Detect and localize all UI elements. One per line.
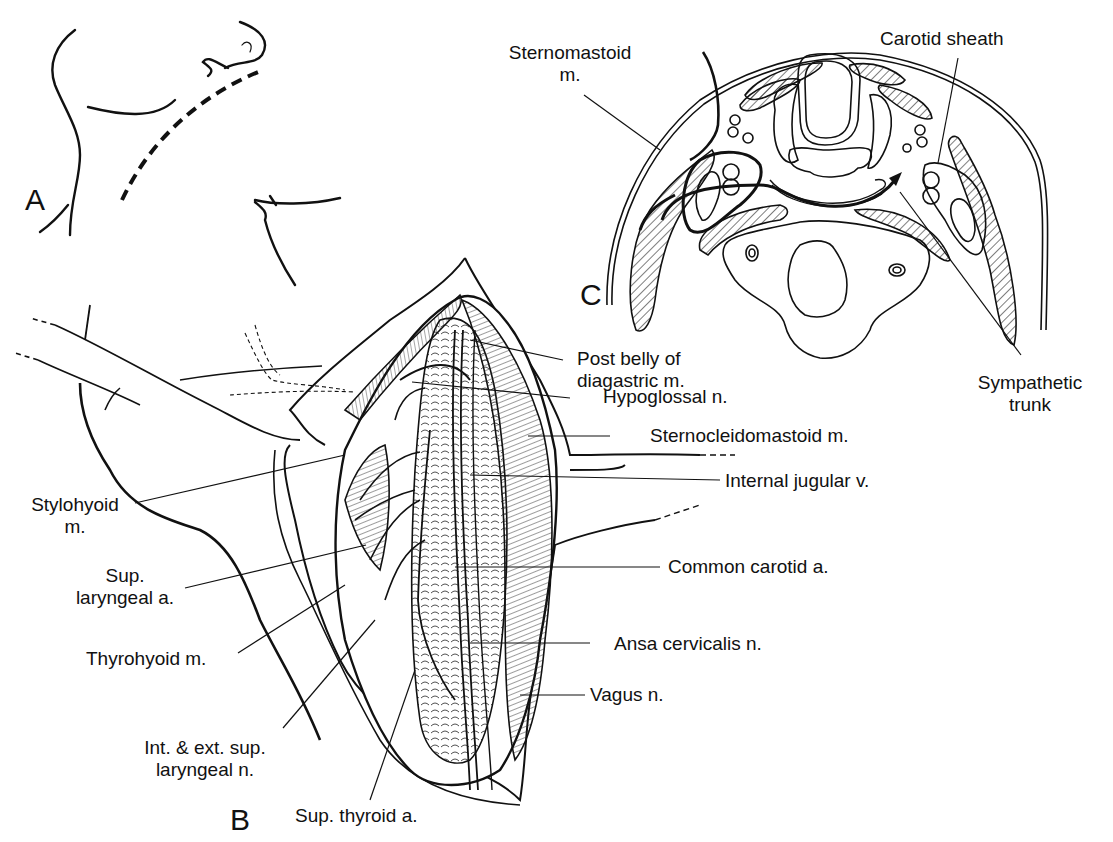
label-line: m. [500,64,640,86]
panel-a-sketch [40,22,340,285]
label-ansa-cervicalis: Ansa cervicalis n. [614,633,762,655]
label-line: Int. & ext. sup. [125,737,285,759]
label-line: laryngeal a. [60,587,190,609]
label-sup-thyroid-artery: Sup. thyroid a. [295,805,418,827]
label-hypoglossal: Hypoglossal n. [603,386,728,408]
label-stylohyoid: Stylohyoid m. [10,494,140,538]
label-carotid-sheath: Carotid sheath [880,28,1004,50]
label-vagus: Vagus n. [590,684,664,706]
illustration [0,0,1113,842]
panel-label-c: C [580,280,602,310]
label-int-ext-sup-laryngeal-nerve: Int. & ext. sup. laryngeal n. [125,737,285,781]
label-line: Sympathetic [960,372,1100,394]
label-line: m. [10,516,140,538]
label-line: Stylohyoid [10,494,140,516]
label-line: Sternomastoid [500,42,640,64]
anatomy-figure: A B C Sternomastoid m. Carotid sheath Sy… [0,0,1113,842]
label-line: laryngeal n. [125,759,285,781]
panel-label-b: B [230,805,250,835]
panel-c-cross-section [584,52,1048,358]
label-sup-laryngeal-artery: Sup. laryngeal a. [60,565,190,609]
label-line: Post belly of [577,348,685,370]
label-sternomastoid: Sternomastoid m. [500,42,640,86]
panel-label-a: A [25,185,45,215]
label-internal-jugular: Internal jugular v. [725,470,869,492]
label-line: Sup. [60,565,190,587]
label-thyrohyoid: Thyrohyoid m. [86,648,206,670]
label-common-carotid: Common carotid a. [668,556,829,578]
label-sympathetic-trunk: Sympathetic trunk [960,372,1100,416]
incision-line [122,70,263,200]
label-line: trunk [960,394,1100,416]
label-sternocleidomastoid: Sternocleidomastoid m. [650,425,849,447]
